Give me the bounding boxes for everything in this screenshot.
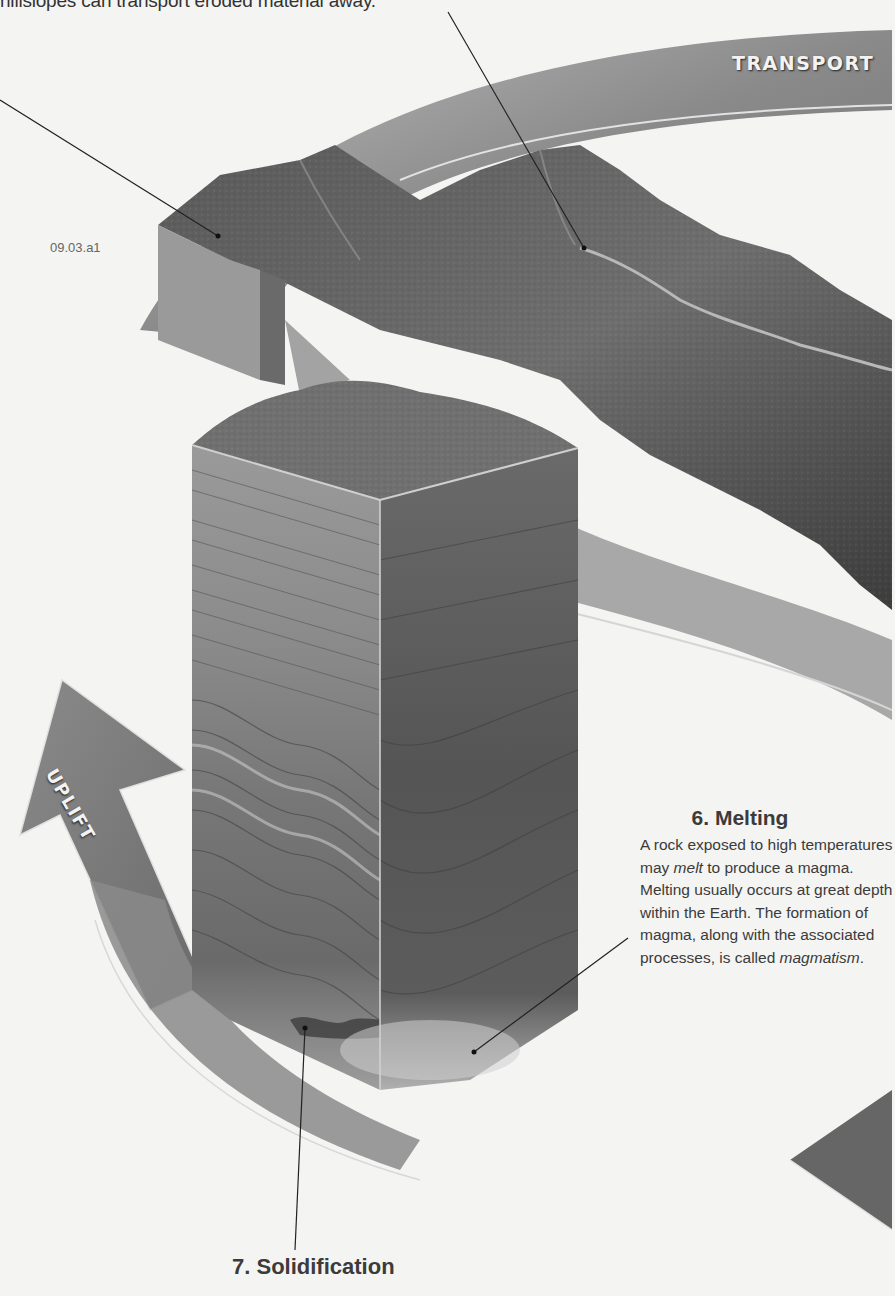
melting-title: 6. Melting: [625, 806, 855, 830]
melting-term-melt: melt: [674, 859, 703, 876]
rock-block: [192, 381, 578, 1090]
solidification-title: 7. Solidification: [232, 1254, 395, 1280]
leader-dot-solidification: [303, 1026, 308, 1031]
leader-dot-hillslope: [216, 234, 221, 239]
leader-dot-river: [582, 246, 587, 251]
leader-dot-melting: [472, 1050, 477, 1055]
melting-description: A rock exposed to high temperatures may …: [625, 834, 895, 969]
melting-text-3: .: [860, 949, 864, 966]
melting-annotation: 6. Melting A rock exposed to high temper…: [625, 806, 895, 969]
figure-id: 09.03.a1: [50, 240, 101, 255]
cycle-arrow-continuation: [790, 1090, 892, 1230]
melting-term-magmatism: magmatism: [780, 949, 860, 966]
transport-label: TRANSPORT: [732, 52, 874, 74]
top-caption: hillslopes can transport eroded material…: [0, 0, 376, 12]
